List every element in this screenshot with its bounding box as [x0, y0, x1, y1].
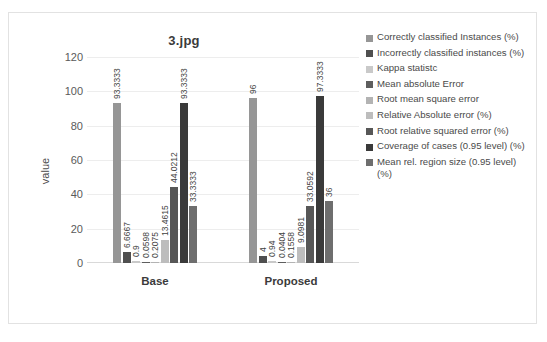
- y-axis-tick-40: 40: [49, 188, 83, 200]
- legend-swatch-icon: [366, 128, 373, 135]
- bar-value-label: 93.3333: [178, 68, 188, 99]
- bar-value-label: 0.94: [267, 241, 277, 258]
- legend-swatch-icon: [366, 66, 373, 73]
- y-axis-tick-labels: 120100806040200: [49, 57, 83, 263]
- bar[interactable]: 93.3333: [180, 103, 188, 263]
- bar[interactable]: 0.1558: [287, 262, 295, 263]
- bar[interactable]: 0.9: [132, 261, 140, 263]
- bar[interactable]: 0.0404: [278, 262, 286, 263]
- bar[interactable]: 0.0598: [142, 262, 150, 263]
- bar[interactable]: 33.3333: [189, 206, 197, 263]
- bar[interactable]: 13.4615: [161, 240, 169, 263]
- bar-value-label: 0.0598: [140, 232, 150, 258]
- legend-item[interactable]: Correctly classified Instances (%): [366, 31, 534, 44]
- y-axis-tick-60: 60: [49, 154, 83, 166]
- bar-value-label: 96: [248, 85, 258, 94]
- legend-swatch-icon: [366, 144, 373, 151]
- bar-value-label: 0.0404: [276, 232, 286, 258]
- bar-value-label: 36: [324, 188, 334, 197]
- x-axis-label-proposed: Proposed: [223, 275, 359, 287]
- legend-label: Mean absolute Error: [377, 78, 464, 91]
- legend-item[interactable]: Kappa statistc: [366, 62, 534, 75]
- legend-item[interactable]: Root relative squared error (%): [366, 125, 534, 138]
- legend-item[interactable]: Root mean square error: [366, 93, 534, 106]
- bar[interactable]: 97.3333: [316, 96, 324, 263]
- y-axis-tick-0: 0: [49, 257, 83, 269]
- bar[interactable]: 93.3333: [113, 103, 121, 263]
- y-axis-tick-120: 120: [49, 51, 83, 63]
- legend-swatch-icon: [366, 50, 373, 57]
- bar-value-label: 93.3333: [112, 68, 122, 99]
- bar-value-label: 4: [257, 247, 267, 252]
- legend-swatch-icon: [366, 35, 373, 42]
- bar-value-label: 9.0981: [295, 217, 305, 243]
- legend-label: Root mean square error: [377, 93, 479, 106]
- legend-item[interactable]: Incorrectly classified instances (%): [366, 47, 534, 60]
- legend-label: Incorrectly classified instances (%): [377, 47, 524, 60]
- bar-value-label: 44.0212: [169, 153, 179, 184]
- legend-item[interactable]: Relative Absolute error (%): [366, 109, 534, 122]
- legend-swatch-icon: [366, 97, 373, 104]
- legend-label: Relative Absolute error (%): [377, 109, 492, 122]
- legend-label: Mean rel. region size (0.95 level) (%): [377, 156, 527, 181]
- bar-value-label: 6.6667: [121, 222, 131, 248]
- bar[interactable]: 36: [325, 201, 333, 263]
- bar[interactable]: 4: [259, 256, 267, 263]
- legend-label: Kappa statistc: [377, 62, 437, 75]
- y-axis-tick-100: 100: [49, 85, 83, 97]
- legend-label: Correctly classified Instances (%): [377, 31, 519, 44]
- bar[interactable]: 9.0981: [297, 247, 305, 263]
- bar[interactable]: 33.0592: [306, 206, 314, 263]
- bar-value-label: 0.1558: [286, 232, 296, 258]
- bar-value-label: 97.3333: [314, 61, 324, 92]
- legend-item[interactable]: Mean absolute Error: [366, 78, 534, 91]
- legend-swatch-icon: [366, 81, 373, 88]
- plot-wrapper: value 120100806040200 93.33336.66670.90.…: [23, 57, 361, 309]
- legend-item[interactable]: Coverage of cases (0.95 level) (%): [366, 140, 534, 153]
- bar[interactable]: 0.2075: [151, 262, 159, 263]
- legend-swatch-icon: [366, 112, 373, 119]
- bar[interactable]: 6.6667: [123, 252, 131, 263]
- y-axis-tick-20: 20: [49, 223, 83, 235]
- bar-value-label: 33.3333: [188, 171, 198, 202]
- bar-value-label: 0.9: [131, 246, 141, 258]
- legend-label: Root relative squared error (%): [377, 125, 509, 138]
- plot-area: 93.33336.66670.90.05980.207513.461544.02…: [87, 57, 359, 263]
- bar[interactable]: 44.0212: [170, 187, 178, 263]
- y-axis-tick-80: 80: [49, 120, 83, 132]
- bar-value-label: 33.0592: [305, 172, 315, 203]
- legend-item[interactable]: Mean rel. region size (0.95 level) (%): [366, 156, 534, 181]
- bars-layer: 93.33336.66670.90.05980.207513.461544.02…: [87, 57, 359, 263]
- x-axis-category-labels: BaseProposed: [87, 269, 359, 295]
- chart-card: 3.jpg value 120100806040200 93.33336.666…: [8, 12, 537, 324]
- chart-title: 3.jpg: [9, 33, 359, 48]
- bar[interactable]: 96: [249, 98, 257, 263]
- legend-swatch-icon: [366, 159, 373, 166]
- chart-legend: Correctly classified Instances (%)Incorr…: [366, 31, 534, 317]
- bar-value-label: 0.2075: [150, 232, 160, 258]
- bar-group-proposed: 9640.940.04040.15589.098133.059297.33333…: [223, 57, 359, 263]
- legend-label: Coverage of cases (0.95 level) (%): [377, 140, 525, 153]
- bar-group-base: 93.33336.66670.90.05980.207513.461544.02…: [87, 57, 223, 263]
- bar-value-label: 13.4615: [159, 205, 169, 236]
- bar[interactable]: 0.94: [268, 261, 276, 263]
- x-axis-label-base: Base: [87, 275, 223, 287]
